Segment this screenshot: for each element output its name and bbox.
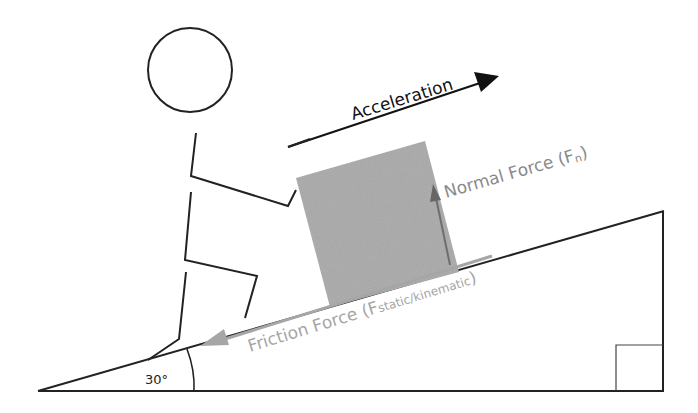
- block: [296, 141, 459, 307]
- lower-leg: [148, 272, 186, 360]
- right-angle-marker: [616, 345, 663, 391]
- angle-arc: [187, 349, 194, 391]
- forearm-upper: [288, 139, 310, 147]
- acceleration-label: Acceleration: [348, 74, 455, 124]
- upper-leg: [185, 192, 257, 318]
- head: [148, 28, 232, 112]
- normal-force-label: Normal Force (Fn): [442, 142, 590, 203]
- friction-arrowhead-icon: [200, 329, 229, 346]
- stick-figure-person: [148, 28, 310, 360]
- torso-and-arm: [191, 133, 296, 206]
- incline-diagram: 30° Normal Force (Fn) Friction Force (Fs…: [0, 0, 698, 413]
- angle-label: 30°: [145, 372, 168, 387]
- acceleration-arrowhead-icon: [474, 72, 499, 92]
